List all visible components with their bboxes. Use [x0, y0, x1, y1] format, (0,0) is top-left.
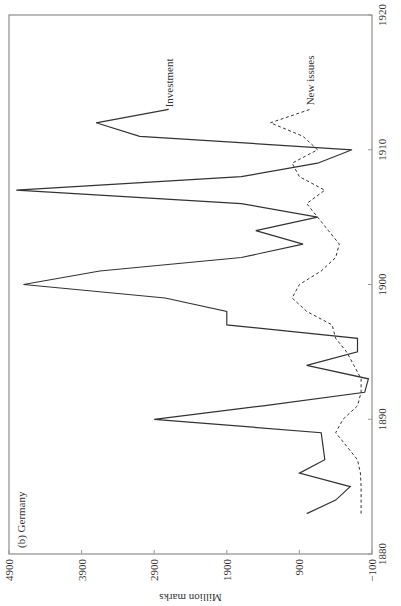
value-tick-label: −100 — [366, 559, 378, 582]
new-issues-line — [270, 109, 361, 513]
panel-title: (b) Germany — [15, 491, 28, 548]
plot-frame — [9, 15, 372, 554]
year-tick-label: 1890 — [376, 408, 388, 431]
value-tick-label: 2900 — [148, 559, 160, 582]
new-issues-label: New issues — [304, 56, 316, 106]
investment-line — [16, 109, 368, 513]
value-tick-label: 4900 — [3, 559, 15, 582]
year-tick-label: 1900 — [376, 273, 388, 296]
year-tick-label: 1910 — [376, 138, 388, 161]
y-axis-label: Million marks — [159, 592, 222, 604]
value-tick-label: 1900 — [221, 559, 233, 582]
value-tick-label: 3900 — [76, 559, 88, 582]
year-tick-label: 1920 — [376, 4, 388, 27]
value-tick-label: 900 — [293, 559, 305, 576]
investment-label: Investment — [163, 58, 175, 107]
germany-investment-chart: 18801890190019101920−1009001900290039004… — [0, 0, 401, 606]
